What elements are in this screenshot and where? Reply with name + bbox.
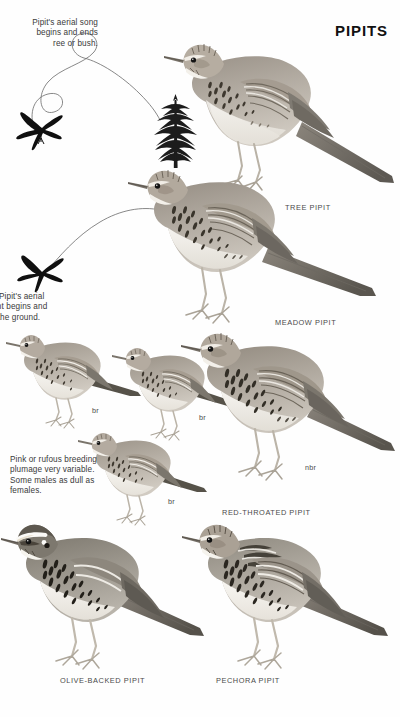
species-label-meadow-pipit: MEADOW PIPIT [275,318,336,327]
song-flight-silhouette-meadow [16,250,68,292]
species-label-olive-backed-pipit: OLIVE-BACKED PIPIT [60,676,145,685]
age-label-br-3: br [168,497,175,506]
age-label-br-2: br [199,413,206,422]
note-breeding-plumage: Pink or rufous breeding plumage very var… [10,455,130,497]
song-flight-silhouette-tree [16,108,68,150]
figure-meadow-pipit-perched [140,160,400,335]
figure-olive-backed-pipit [14,518,209,678]
note-tree-pipit-song: Pipit's aerial song begins and ends ree … [0,18,98,49]
species-label-tree-pipit: TREE PIPIT [285,203,331,212]
note-meadow-pipit-song: ow Pipit's aerial flight begins and on t… [0,292,90,323]
age-label-nbr-1: nbr [305,463,316,472]
species-label-pechora-pipit: PECHORA PIPIT [216,676,280,685]
field-guide-page: PIPITS [0,0,400,717]
age-label-br-1: br [92,406,99,415]
figure-pechora-pipit [196,520,396,680]
figure-red-throated-pipit-nbr [195,325,400,495]
species-label-red-throated-pipit: RED-THROATED PIPIT [222,508,311,517]
